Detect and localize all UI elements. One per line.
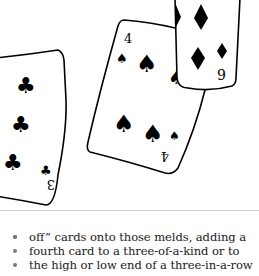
rank-three: 3 [47, 177, 55, 192]
card-nine-of-diamonds [175, 0, 240, 90]
svg-text:♣: ♣ [3, 150, 23, 175]
rank-four-inverted: 4 [161, 149, 169, 164]
text-line: the high or low end of a three-in-a-row [13, 258, 259, 272]
section-divider [0, 210, 259, 211]
playing-cards-illustration: ♣ ♣ ♣ ♣ 3 4 ♠ ♠ ♠ ♠ ♠ ♠ 4 9 [0, 0, 259, 212]
spade-icon: ♠ ♠ ♠ ♠ ♠ ♠ [113, 50, 184, 148]
line-text: the high or low end of a three-in-a-row [29, 258, 253, 272]
text-line: off” cards onto those melds, adding a [13, 230, 259, 244]
club-icon: ♣ ♣ ♣ ♣ [3, 73, 52, 178]
svg-text:♣: ♣ [11, 112, 31, 137]
svg-text:♣: ♣ [40, 163, 52, 178]
bullet-icon [13, 263, 17, 267]
svg-text:♣: ♣ [16, 73, 36, 98]
svg-text:♠: ♠ [113, 110, 135, 138]
line-text: fourth card to a three-of-a-kind or to [29, 244, 239, 258]
line-text: off” cards onto those melds, adding a [29, 230, 246, 244]
bullet-icon [13, 249, 17, 253]
rank-nine: 9 [217, 67, 226, 83]
svg-text:♠: ♠ [136, 50, 158, 78]
rank-four: 4 [124, 31, 132, 46]
text-line: fourth card to a three-of-a-kind or to [13, 244, 259, 258]
svg-text:♠: ♠ [169, 129, 180, 143]
svg-text:♠: ♠ [142, 120, 164, 148]
bullet-icon [13, 235, 17, 239]
svg-text:♠: ♠ [116, 51, 128, 66]
body-text: off” cards onto those melds, adding a fo… [13, 230, 259, 272]
